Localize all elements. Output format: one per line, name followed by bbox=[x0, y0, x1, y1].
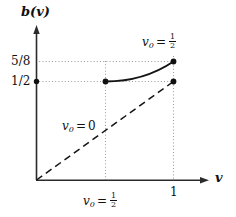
x-axis-arrowhead bbox=[200, 177, 209, 183]
fraction-denominator: 2 bbox=[110, 201, 117, 209]
figure-canvas: b(v) v 5/8 1/2 1 v0=12 v0=0 v0=12 bbox=[0, 0, 236, 217]
annot-fraction: 12 bbox=[110, 192, 117, 209]
marker-curve-start bbox=[103, 79, 109, 85]
y-tick-label-1-2: 1/2 bbox=[11, 75, 30, 87]
x-tick-label-one: 1 bbox=[170, 186, 178, 198]
annot-equals: = bbox=[74, 119, 88, 133]
annot-equals: = bbox=[154, 35, 168, 49]
solid-curve-v0-half bbox=[106, 62, 174, 82]
annotation-xaxis-v0-half: v0=12 bbox=[83, 192, 117, 209]
plot-svg bbox=[0, 0, 236, 217]
marker-curve-end bbox=[171, 59, 177, 65]
y-axis-label: b(v) bbox=[21, 5, 50, 18]
annot-fraction: 12 bbox=[169, 33, 176, 50]
marker-dashed-end bbox=[171, 79, 177, 85]
annot-var: v bbox=[83, 194, 90, 208]
annot-var: v bbox=[62, 119, 69, 133]
marker-yaxis-half bbox=[34, 79, 39, 84]
annotation-curve-v0-half: v0=12 bbox=[142, 33, 176, 50]
fraction-denominator: 2 bbox=[169, 42, 176, 50]
annot-var: v bbox=[142, 35, 149, 49]
annot-value: 0 bbox=[88, 119, 96, 133]
annot-equals: = bbox=[95, 194, 109, 208]
annotation-dashed-v0-zero: v0=0 bbox=[62, 120, 96, 134]
y-axis-arrowhead bbox=[33, 25, 39, 34]
x-axis-label: v bbox=[215, 171, 223, 184]
y-tick-label-5-8: 5/8 bbox=[11, 55, 30, 67]
